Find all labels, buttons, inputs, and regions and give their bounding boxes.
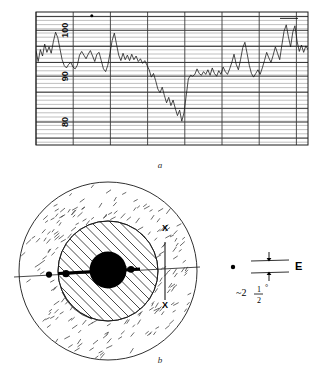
plot-background	[36, 12, 308, 145]
panel-b-diagram: X X E ~2 1 2 ° b	[0, 180, 319, 374]
scale-fraction-denominator: 2	[257, 296, 261, 305]
y-tick-label-80: 80	[60, 117, 70, 127]
panel-b-label: b	[158, 355, 163, 365]
axis-dot-far-left	[46, 272, 52, 278]
panel-a-chart-recorder: 1009080 a	[0, 0, 319, 180]
scale-magnitude: ~2	[236, 287, 246, 298]
core-disk	[90, 252, 127, 289]
y-tick-label-100: 100	[60, 23, 70, 38]
scale-line-bottom	[251, 272, 289, 273]
scale-unit-symbol: °	[265, 283, 268, 292]
figure-container: 1009080 a X X E ~2 1 2	[0, 0, 319, 374]
reference-dot	[231, 265, 235, 269]
y-tick-label-90: 90	[60, 71, 70, 81]
chart-marker-top-dot	[90, 14, 93, 17]
x-mark-top: X	[162, 223, 168, 233]
panel-a-label: a	[158, 160, 163, 170]
scale-label-e: E	[295, 260, 302, 272]
axis-dot-mid-left	[62, 270, 69, 277]
x-mark-bottom: X	[162, 300, 168, 310]
scale-fraction-numerator: 1	[257, 285, 261, 294]
axis-dot-right	[128, 266, 135, 273]
scale-line-top	[251, 260, 289, 261]
